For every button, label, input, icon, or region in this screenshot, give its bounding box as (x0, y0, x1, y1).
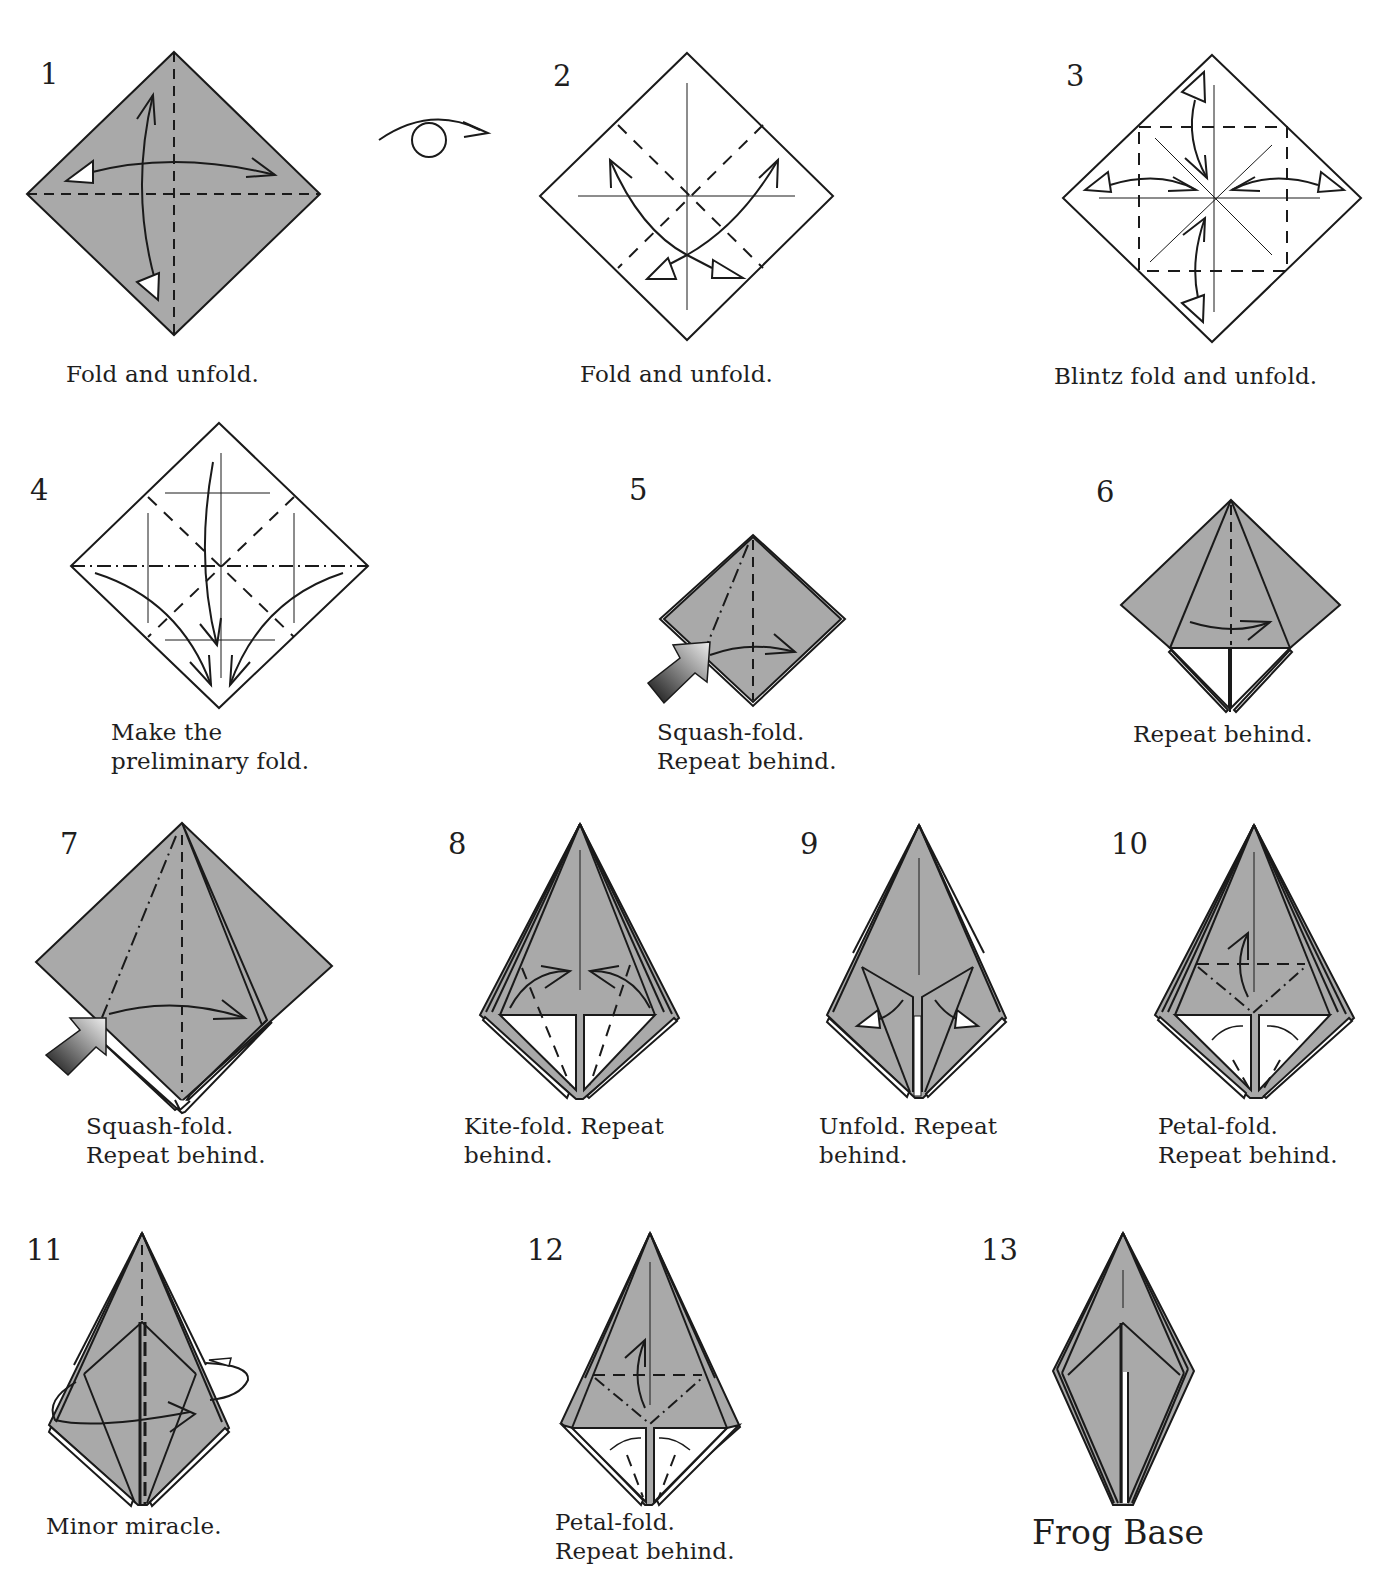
step-13-diagram (0, 0, 1388, 1586)
page-title: Frog Base (1032, 1518, 1204, 1547)
